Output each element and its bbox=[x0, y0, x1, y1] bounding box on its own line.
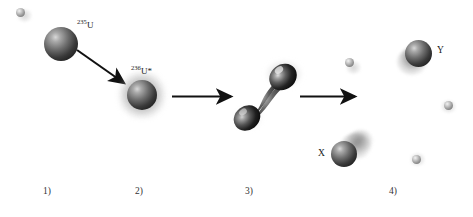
emitted-neutron-2 bbox=[444, 101, 453, 110]
incident-neutron bbox=[16, 8, 25, 17]
stage-caption-2: 2) bbox=[135, 186, 143, 196]
uranium-236-mass-number: 236 bbox=[131, 64, 141, 71]
arrow-scission bbox=[299, 90, 367, 104]
stage-caption-3: 3) bbox=[245, 186, 253, 196]
uranium-236-excited-label: 236U* bbox=[131, 64, 152, 76]
uranium-236-symbol: U* bbox=[141, 66, 152, 76]
compound-nucleus-u236 bbox=[127, 80, 157, 110]
uranium-235-mass-number: 235 bbox=[77, 18, 87, 25]
uranium-235-symbol: U bbox=[87, 20, 94, 30]
emitted-neutron-3 bbox=[412, 155, 421, 164]
fission-fragment-y bbox=[405, 40, 432, 67]
uranium-235-label: 235U bbox=[77, 18, 94, 30]
stage-caption-4: 4) bbox=[389, 186, 397, 196]
emitted-neutron-1 bbox=[345, 58, 354, 67]
fission-diagram: 235U 236U* bbox=[0, 0, 473, 217]
fission-fragment-x bbox=[331, 141, 357, 167]
fragment-x-label: X bbox=[318, 148, 325, 158]
uranium-235-nucleus bbox=[44, 27, 78, 61]
fragment-y-label: Y bbox=[437, 45, 444, 55]
stage-caption-1: 1) bbox=[43, 186, 51, 196]
